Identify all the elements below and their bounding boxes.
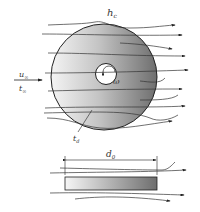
disk-side	[65, 177, 157, 190]
diagram-canvas: hc u∞ t∞ ω td d0	[0, 0, 200, 212]
label-u-inf: u∞	[19, 70, 28, 80]
label-td: td	[73, 134, 79, 144]
top-view: hc u∞ t∞ ω td	[14, 7, 188, 144]
side-view: d0	[50, 149, 186, 201]
label-omega: ω	[113, 77, 120, 86]
label-hc: hc	[107, 7, 117, 19]
label-t-inf: t∞	[19, 84, 26, 94]
label-d0: d0	[106, 149, 116, 160]
